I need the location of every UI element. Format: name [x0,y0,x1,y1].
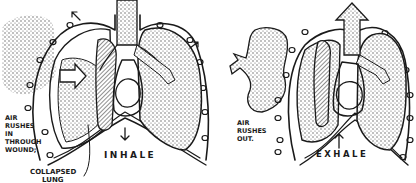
heart-inner-inhale [116,79,141,107]
sucking-chest-wound-diagram: INHALE AIR RUSHES IN THROUGH WOUND; COLL… [0,0,416,183]
svg-text:COLLAPSED: COLLAPSED [30,168,76,176]
inhale-label: INHALE [104,150,156,160]
collapsed-lung-callout: COLLAPSED LUNG [30,168,76,183]
inhale-arrow-icon [121,128,129,140]
svg-text:RUSHES: RUSHES [237,127,267,135]
outgoing-air-cloud [230,28,288,112]
svg-text:IN: IN [5,130,13,138]
exhale-arrow-icon [335,134,343,148]
wound-label-in: AIR RUSHES IN THROUGH WOUND; [5,114,41,154]
svg-text:AIR: AIR [237,119,249,127]
svg-text:AIR: AIR [5,114,17,122]
exhale-label: EXHALE [316,149,368,159]
trachea-inhale [117,0,137,45]
collapsed-lung-exhale [314,41,330,127]
svg-text:THROUGH: THROUGH [5,138,41,146]
collapsed-lung [96,39,117,130]
svg-text:LUNG: LUNG [42,176,64,183]
svg-text:OUT.: OUT. [237,135,254,143]
exhale-panel: EXHALE AIR RUSHES OUT. [230,3,413,165]
svg-text:RUSHES: RUSHES [5,122,35,130]
wound-label-out: AIR RUSHES OUT. [237,119,267,143]
svg-text:WOUND;: WOUND; [5,146,36,154]
inhale-panel: INHALE AIR RUSHES IN THROUGH WOUND; COLL… [2,0,208,183]
